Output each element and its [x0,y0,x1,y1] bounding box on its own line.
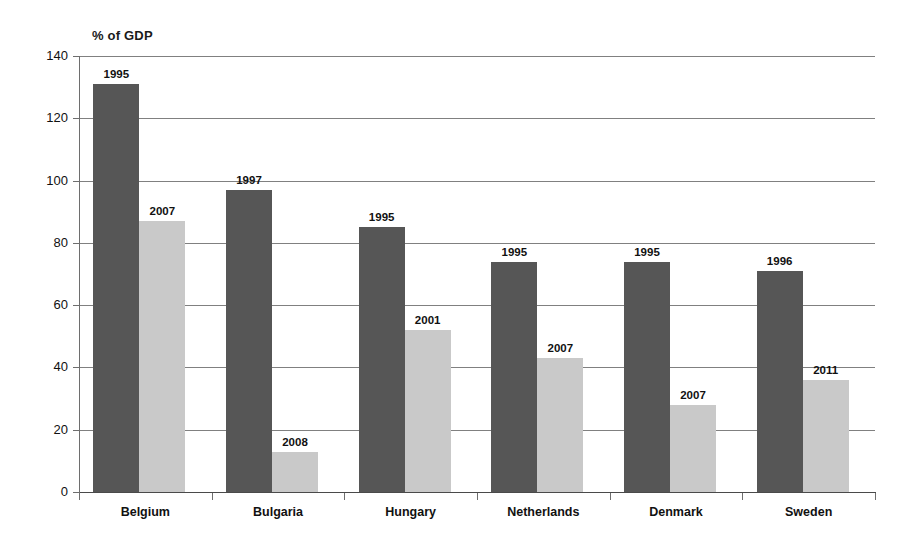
bar-chart: % of GDP 1995200719972008199520011995200… [0,0,918,554]
category-label-denmark: Denmark [649,505,703,519]
category-label-hungary: Hungary [385,505,436,519]
bar-sweden-earlier-year [757,271,803,492]
bar-group: 19962011 [79,56,875,492]
x-tick-mark [742,493,743,500]
y-tick-mark [73,56,80,57]
category-label-netherlands: Netherlands [507,505,579,519]
y-tick-mark [73,305,80,306]
bar-value-label: 2011 [813,364,838,376]
y-tick-mark [73,181,80,182]
category-label-sweden: Sweden [785,505,832,519]
y-tick-label: 60 [20,297,68,312]
y-tick-label: 120 [20,110,68,125]
category-label-belgium: Belgium [121,505,170,519]
x-tick-mark [610,493,611,500]
x-tick-mark [477,493,478,500]
y-tick-mark [73,118,80,119]
category-label-bulgaria: Bulgaria [253,505,303,519]
y-tick-label: 40 [20,359,68,374]
y-axis-title: % of GDP [92,28,153,43]
plot-area: 1995200719972008199520011995200719952007… [79,56,875,492]
x-tick-mark [212,493,213,500]
y-tick-label: 20 [20,422,68,437]
x-tick-mark [344,493,345,500]
bar-sweden-later-year [803,380,849,492]
y-tick-mark [73,243,80,244]
y-tick-mark [73,367,80,368]
y-tick-label: 0 [20,484,68,499]
y-tick-mark [73,430,80,431]
y-tick-label: 100 [20,173,68,188]
y-tick-label: 80 [20,235,68,250]
y-tick-label: 140 [20,48,68,63]
bar-value-label: 1996 [767,255,793,267]
x-tick-mark [875,493,876,500]
x-tick-mark-origin [79,493,80,500]
